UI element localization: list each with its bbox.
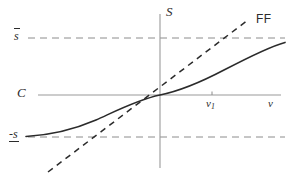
upper-asymptote-label: s bbox=[14, 30, 19, 42]
upper-asymptote-label-text: s bbox=[14, 30, 19, 42]
lower-asymptote-label: -s bbox=[9, 128, 18, 140]
vertical-axis-label: S bbox=[166, 5, 173, 18]
tick-label-v1: v1 bbox=[206, 98, 215, 111]
intercept-label: C bbox=[17, 86, 26, 99]
horizontal-axis-label: v bbox=[268, 98, 273, 109]
ff-curve-label: FF bbox=[256, 13, 271, 25]
tick-label-v1-subscript: 1 bbox=[211, 102, 215, 111]
figure-canvas: s C -s S FF v1 v bbox=[0, 0, 297, 177]
ff-line bbox=[48, 20, 248, 172]
lower-asymptote-label-text: -s bbox=[9, 128, 18, 140]
chart-plot-area bbox=[0, 0, 297, 177]
